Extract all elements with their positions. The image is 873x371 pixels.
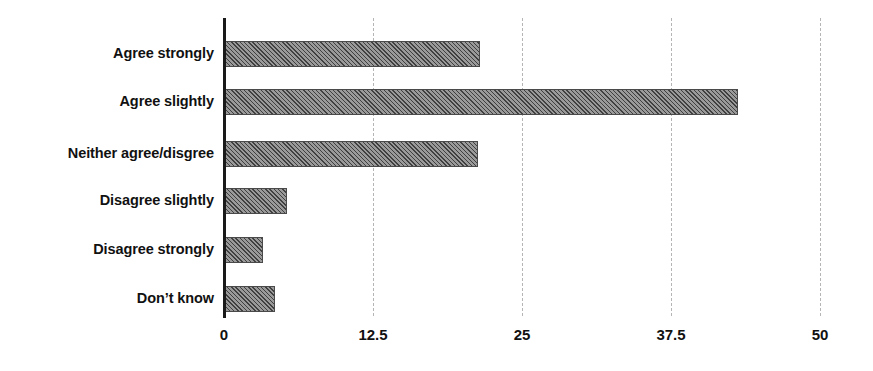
gridline-37-5 (671, 18, 672, 316)
bar-disagree-slightly (224, 188, 287, 214)
category-label-5: Don’t know (137, 290, 214, 306)
x-tick-label-0: 0 (220, 326, 228, 343)
gridline-25 (522, 18, 523, 316)
category-label-0: Agree strongly (113, 45, 214, 61)
x-tick-label-1: 12.5 (358, 326, 387, 343)
bar-dont-know (224, 286, 275, 312)
bar-agree-slightly (224, 89, 738, 115)
bar-chart: Agree strongly Agree slightly Neither ag… (0, 0, 873, 371)
bar-disagree-strongly (224, 237, 263, 263)
gridline-50 (820, 18, 821, 316)
x-tick-label-4: 50 (812, 326, 829, 343)
category-label-3: Disagree slightly (100, 192, 214, 208)
category-label-4: Disagree strongly (93, 241, 214, 257)
plot-area (224, 18, 820, 316)
category-label-1: Agree slightly (120, 93, 215, 109)
x-tick-label-2: 25 (514, 326, 531, 343)
y-axis-line (223, 18, 226, 318)
category-labels: Agree strongly Agree slightly Neither ag… (0, 0, 214, 371)
bar-agree-strongly (224, 41, 480, 67)
x-tick-label-3: 37.5 (656, 326, 685, 343)
category-label-2: Neither agree/disgree (68, 145, 214, 161)
bar-neither-agree-disgree (224, 141, 478, 167)
